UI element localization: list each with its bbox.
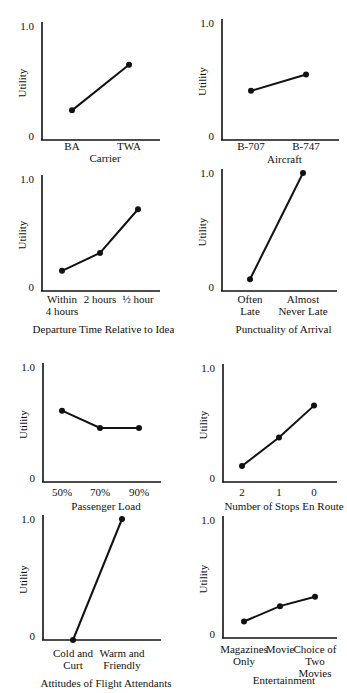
data-point xyxy=(126,62,132,68)
y-tick-max: 1.0 xyxy=(201,362,215,374)
y-tick-zero: 0 xyxy=(29,281,35,293)
data-point xyxy=(119,516,125,522)
x-tick-label: 70% xyxy=(90,486,110,498)
data-point xyxy=(247,276,253,282)
y-axis-label: Utility xyxy=(17,410,29,439)
y-axis-label: Utility xyxy=(196,67,208,96)
x-tick-label: ½ hour xyxy=(122,293,154,305)
utility-chart-attitudes-of-flight-attendants: 1.00UtilityCold andCurtWarm andFriendlyA… xyxy=(0,505,174,693)
y-tick-zero: 0 xyxy=(209,281,215,293)
data-point xyxy=(312,594,318,600)
x-tick-label: B-747 xyxy=(292,140,320,152)
x-tick-label: Movie xyxy=(266,643,295,655)
y-tick-zero: 0 xyxy=(29,130,35,142)
x-tick-label: 1 xyxy=(276,486,282,498)
x-tick-label: Cold and xyxy=(53,647,94,659)
data-point xyxy=(239,463,245,469)
x-tick-label: Curt xyxy=(63,659,83,671)
x-tick-label: Within xyxy=(47,293,78,305)
utility-chart-entertainment: 1.00UtilityMagazinesOnlyMovieChoice ofTw… xyxy=(174,505,347,693)
y-tick-max: 1.0 xyxy=(20,173,34,185)
y-axis-label: Utility xyxy=(16,220,28,249)
data-point xyxy=(300,170,306,176)
x-tick-label: B-707 xyxy=(237,140,265,152)
x-tick-label: Never Late xyxy=(278,305,327,317)
x-tick-label: Magazines xyxy=(220,643,268,655)
y-tick-max: 1.0 xyxy=(200,17,214,29)
data-point xyxy=(135,206,141,212)
y-tick-zero: 0 xyxy=(30,472,36,484)
data-point xyxy=(241,618,247,624)
data-point xyxy=(59,268,65,274)
x-tick-label: 0 xyxy=(311,486,317,498)
utility-line xyxy=(251,74,306,90)
x-axis-label: Carrier xyxy=(89,152,120,164)
y-axis-label: Utility xyxy=(17,565,29,594)
x-axis-label: Aircraft xyxy=(267,153,302,165)
utility-line xyxy=(72,65,129,111)
utility-line xyxy=(62,209,138,271)
x-tick-label: 90% xyxy=(129,486,149,498)
y-tick-zero: 0 xyxy=(210,472,216,484)
y-axis-label: Utility xyxy=(197,564,209,593)
data-point xyxy=(69,107,75,113)
x-tick-label: Almost xyxy=(287,293,319,305)
x-tick-label: Only xyxy=(233,655,256,667)
x-tick-label: Often xyxy=(237,293,263,305)
y-tick-zero: 0 xyxy=(209,130,215,142)
y-tick-zero: 0 xyxy=(210,628,216,640)
x-axis-label: Entertainment xyxy=(253,674,315,686)
utility-chart-punctuality-of-arrival: 1.00UtilityOftenLateAlmostNever LatePunc… xyxy=(174,165,347,359)
y-tick-max: 1.0 xyxy=(21,361,35,373)
x-axis-label: Departure Time Relative to Ideal xyxy=(33,323,174,335)
utility-line xyxy=(73,519,122,640)
data-point xyxy=(311,403,317,409)
x-tick-label: 2 xyxy=(239,486,245,498)
y-tick-zero: 0 xyxy=(30,630,36,642)
y-tick-max: 1.0 xyxy=(20,20,34,32)
x-tick-label: Friendly xyxy=(103,659,141,671)
x-tick-label: 50% xyxy=(52,486,72,498)
x-tick-label: 4 hours xyxy=(46,305,79,317)
data-point xyxy=(70,637,76,643)
data-point xyxy=(277,603,283,609)
x-axis-label: Attitudes of Flight Attendants xyxy=(40,677,171,689)
y-tick-max: 1.0 xyxy=(201,514,215,526)
data-point xyxy=(248,88,254,94)
data-point xyxy=(276,435,282,441)
utility-line xyxy=(250,173,303,279)
x-tick-label: Warm and xyxy=(99,647,145,659)
data-point xyxy=(59,408,65,414)
x-tick-label: BA xyxy=(64,140,79,152)
y-axis-label: Utility xyxy=(196,217,208,246)
data-point xyxy=(97,425,103,431)
y-axis-label: Utility xyxy=(197,410,209,439)
x-axis-label: Punctuality of Arrival xyxy=(236,323,332,335)
y-tick-max: 1.0 xyxy=(21,513,35,525)
data-point xyxy=(97,250,103,256)
utility-chart-departure-time-relative-to-ideal: 1.00UtilityWithin4 hours2 hours½ hourDep… xyxy=(0,165,174,359)
x-tick-label: Choice of xyxy=(293,643,336,655)
y-tick-max: 1.0 xyxy=(200,167,214,179)
x-tick-label: 2 hours xyxy=(84,293,117,305)
data-point xyxy=(136,425,142,431)
x-tick-label: Two xyxy=(305,655,325,667)
x-tick-label: Late xyxy=(240,305,260,317)
x-tick-label: TWA xyxy=(117,140,141,152)
data-point xyxy=(303,71,309,77)
y-axis-label: Utility xyxy=(16,68,28,97)
